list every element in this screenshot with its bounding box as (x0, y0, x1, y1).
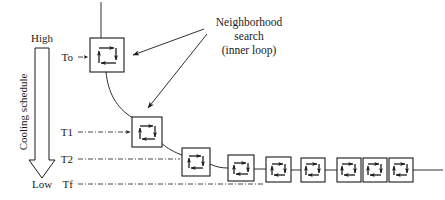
pointer-arrow-icon (148, 34, 207, 108)
connector-box2-box3 (210, 164, 228, 168)
annotation-line-1: Neighborhood (216, 16, 283, 29)
axis-high-label: High (31, 32, 54, 44)
axis-low-label: Low (32, 178, 52, 190)
figure-canvas: High Cooling schedule Low To T1 T2 (0, 0, 445, 200)
down-arrow-icon (29, 48, 55, 178)
temperature-level-t1: T1 (61, 126, 130, 138)
temp-label-t1: T1 (61, 126, 73, 138)
loop-box[interactable] (132, 117, 162, 147)
cooling-schedule-diagram: High Cooling schedule Low To T1 T2 (0, 0, 445, 200)
temperature-level-to: To (62, 51, 88, 63)
connector-box1-box2 (160, 142, 182, 155)
cooling-schedule-axis: High Cooling schedule Low (17, 32, 55, 190)
loop-box-frame (363, 158, 387, 182)
loop-box-frame (182, 148, 210, 176)
loop-box[interactable] (90, 38, 124, 72)
loop-box-list (90, 38, 413, 182)
loop-box[interactable] (266, 157, 291, 182)
loop-box-frame (132, 117, 162, 147)
loop-box-frame (301, 158, 325, 182)
loop-box-frame (337, 158, 361, 182)
temp-label-tf: Tf (63, 178, 74, 190)
loop-box-frame (228, 155, 254, 181)
annotation-neighborhood-search: Neighborhood search (inner loop) (133, 16, 282, 108)
temperature-level-t2: T2 (61, 153, 180, 165)
loop-box-frame (90, 38, 124, 72)
loop-box-frame (389, 158, 413, 182)
cooling-schedule-label: Cooling schedule (17, 74, 29, 151)
loop-box-frame (266, 157, 291, 182)
loop-box[interactable] (301, 158, 325, 182)
annotation-line-3: (inner loop) (222, 44, 277, 57)
connector-box0-box1 (106, 72, 133, 118)
loop-box[interactable] (182, 148, 210, 176)
loop-box[interactable] (337, 158, 361, 182)
annotation-line-2: search (234, 30, 264, 42)
loop-box[interactable] (363, 158, 387, 182)
loop-box[interactable] (228, 155, 254, 181)
temp-label-t2: T2 (61, 153, 73, 165)
temp-label-to: To (62, 51, 74, 63)
loop-box[interactable] (389, 158, 413, 182)
